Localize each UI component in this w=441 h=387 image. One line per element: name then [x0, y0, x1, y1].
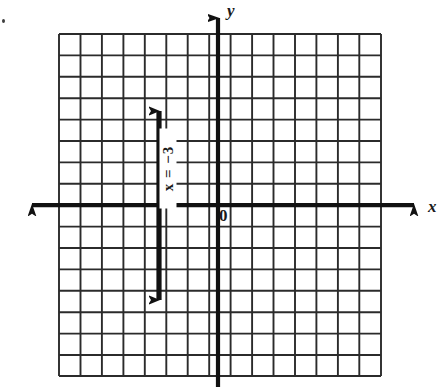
y-axis-label: y [227, 2, 235, 19]
graph-figure: y x 0 x = −3 [0, 0, 441, 387]
coordinate-plane-svg [0, 0, 441, 387]
line-equation-label: x = −3 [160, 129, 177, 209]
x-axis-label: x [428, 198, 437, 215]
origin-label: 0 [219, 207, 228, 224]
